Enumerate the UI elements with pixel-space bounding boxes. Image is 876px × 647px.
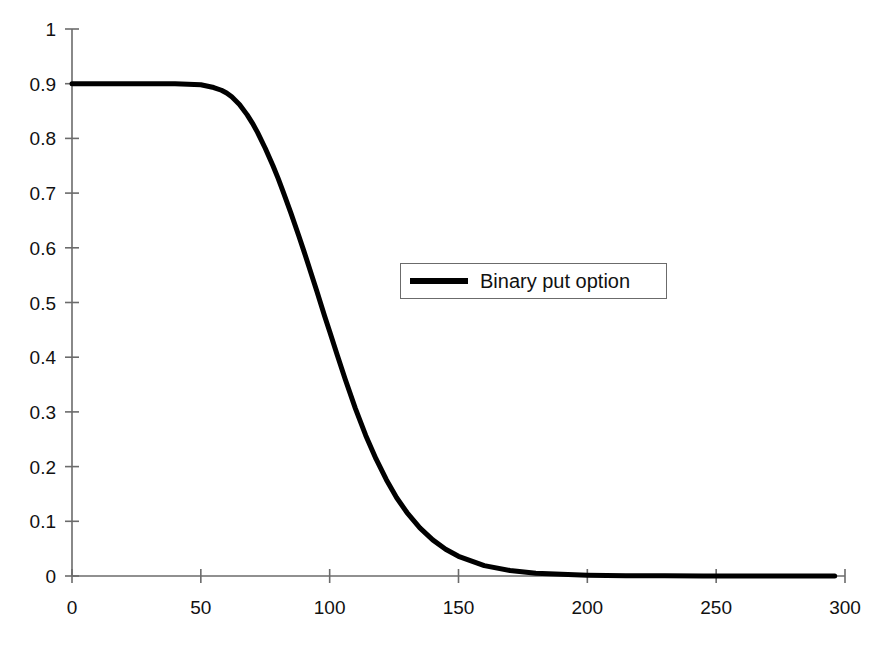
data-series-group <box>72 84 835 576</box>
y-axis-tick-label: 0.4 <box>0 348 56 367</box>
y-axis-tick-label: 1 <box>0 20 56 39</box>
y-axis-tick-label: 0.8 <box>0 129 56 148</box>
chart-legend: Binary put option <box>400 263 667 299</box>
y-axis-tick-label: 0.3 <box>0 402 56 421</box>
chart-plot-area <box>0 0 876 647</box>
x-axis-tick-label: 250 <box>700 598 732 617</box>
y-axis-tick-label: 0.7 <box>0 184 56 203</box>
data-series-line <box>72 84 835 576</box>
x-axis-tick-label: 100 <box>314 598 346 617</box>
x-axis-tick-label: 0 <box>67 598 78 617</box>
x-axis-tick-label: 200 <box>571 598 603 617</box>
legend-entry-label: Binary put option <box>480 271 630 291</box>
x-axis-tick-label: 300 <box>829 598 861 617</box>
y-axis-tick-label: 0.9 <box>0 74 56 93</box>
y-axis-tick-label: 0 <box>0 567 56 586</box>
legend-line-swatch-icon <box>410 278 468 284</box>
y-axis-tick-label: 0.1 <box>0 512 56 531</box>
x-axis-tick-label: 150 <box>443 598 475 617</box>
x-axis-tick-label: 50 <box>190 598 211 617</box>
y-axis-tick-label: 0.2 <box>0 457 56 476</box>
y-axis-tick-label: 0.5 <box>0 293 56 312</box>
chart-container: 00.10.20.30.40.50.60.70.80.91 0501001502… <box>0 0 876 647</box>
y-axis-tick-label: 0.6 <box>0 238 56 257</box>
axes-group <box>72 29 845 576</box>
